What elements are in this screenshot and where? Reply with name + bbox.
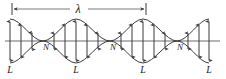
- loop-label: L: [6, 64, 13, 75]
- node-label: N: [109, 42, 117, 52]
- loop-label: L: [205, 64, 212, 75]
- wavelength-dimension: λ: [12, 2, 146, 16]
- standing-wave-figure: λ N N: [0, 0, 226, 79]
- node-label: N: [176, 42, 184, 52]
- loop-label: L: [139, 64, 146, 75]
- standing-wave-svg: λ N N: [0, 0, 226, 79]
- wavelength-label: λ: [74, 2, 80, 16]
- node-label: N: [42, 42, 50, 52]
- loop-label: L: [72, 64, 79, 75]
- node-label-group: N N N: [42, 42, 184, 52]
- loop-label-group: L L L L: [6, 64, 212, 75]
- wave-envelope-upper: [10, 19, 209, 41]
